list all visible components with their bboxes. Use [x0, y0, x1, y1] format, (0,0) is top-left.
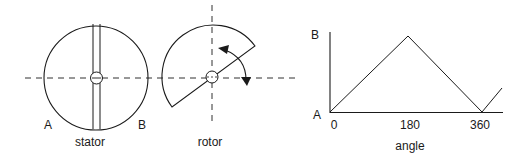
stator-label-b: B	[138, 118, 146, 132]
stator-figure	[44, 24, 148, 130]
rotation-arrowhead-top-icon	[218, 45, 229, 54]
rotor-figure	[162, 25, 255, 107]
diagram-canvas: A B stator rotor B A 0 180 360 angle	[0, 0, 528, 161]
rotor-caption: rotor	[198, 135, 223, 149]
chart-triangle-wave	[330, 36, 502, 112]
chart-y-label-b: B	[311, 28, 319, 42]
chart-x-tick-360: 360	[470, 118, 490, 132]
rotor-sector	[162, 25, 255, 107]
chart-y-label-a: A	[313, 108, 321, 122]
stator-label-a: A	[44, 118, 52, 132]
chart-x-tick-180: 180	[400, 118, 420, 132]
rotation-arrowhead-bottom-icon	[241, 77, 251, 86]
stator-caption: stator	[75, 135, 105, 149]
chart-x-axis-label: angle	[395, 139, 425, 153]
chart-x-tick-0: 0	[331, 118, 338, 132]
position-chart	[330, 32, 503, 113]
